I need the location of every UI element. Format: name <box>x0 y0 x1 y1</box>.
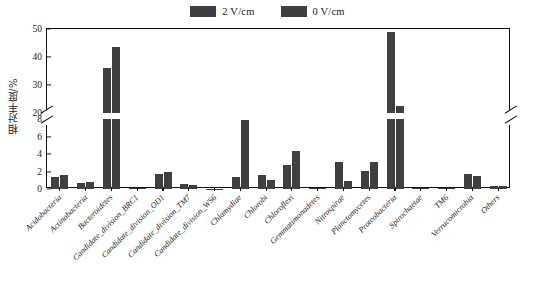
bar-candidate_division_tm7-series-1 <box>180 184 188 189</box>
x-axis-label-others: Others <box>479 193 501 215</box>
y-tick-mark-6 <box>47 136 51 137</box>
x-axis-label-candidate_division_ws6: Candidate_division_WS6 <box>152 193 218 259</box>
y-tick-label-50: 50 <box>33 24 48 34</box>
bar-gemmatimonadetes-series-1 <box>309 188 317 189</box>
x-axis-label-candidate_division_od1: Candidate_division_OD1 <box>100 193 167 260</box>
x-axis-label-actinobacteria: Actinobacteria <box>48 193 89 234</box>
bar-candidate_division_brc1-series-2 <box>138 188 146 189</box>
x-axis-label-bacteroidetes: Bacteroidetes <box>76 193 114 231</box>
plot-area: 0246820304050 <box>46 28 510 188</box>
bar-candidate_division_od1-series-2 <box>164 172 172 190</box>
bar-nitrospirae-series-2 <box>344 181 352 189</box>
bar-chlamydiae-series-1 <box>232 177 240 189</box>
bar-chloroflexi-series-1 <box>283 165 291 189</box>
bar-spirochaetae-series-2 <box>421 188 429 189</box>
y-tick-label-4: 4 <box>37 149 47 159</box>
x-axis-label-candidate_division_brc1: Candidate_division_BRC1 <box>71 193 140 262</box>
bar-proteobacteria-series-1-lower <box>387 119 395 189</box>
legend-label-series-1: 2 V/cm <box>222 6 254 17</box>
bar-verrucomicrobia-series-2 <box>473 176 481 189</box>
x-axis-label-proteobacteria: Proteobacteria <box>357 193 399 235</box>
legend-item-series-2: 0 V/cm <box>281 6 345 17</box>
bar-spirochaetae-series-1 <box>412 188 420 189</box>
x-axis-label-chloroflexi: Chloroflexi <box>262 193 295 226</box>
x-axis-label-gemmatimonadetes: Gemmatimonadetes <box>268 193 321 246</box>
bar-proteobacteria-series-2-upper <box>396 106 404 113</box>
bar-planctomycetes-series-1 <box>361 171 369 189</box>
bar-candidate_division_tm7-series-2 <box>189 185 197 189</box>
bar-others-series-1 <box>490 186 498 190</box>
bar-bacteroidetes-series-1-upper <box>103 68 111 113</box>
bar-chlorobi-series-1 <box>258 175 266 189</box>
y-tick-label-2: 2 <box>37 167 47 177</box>
y-tick-mark-50 <box>47 28 51 29</box>
bar-chart: 2 V/cm 0 V/cm 相对丰度/% 0246820304050 Acido… <box>0 0 535 304</box>
bar-nitrospirae-series-1 <box>335 162 343 189</box>
x-axis-label-chlamydiae: Chlamydiae <box>209 193 244 228</box>
bar-chlamydiae-series-2 <box>241 120 249 189</box>
x-axis-label-planctomycetes: Planctomycetes <box>329 193 372 236</box>
legend-label-series-2: 0 V/cm <box>313 6 345 17</box>
axis-break-mark-right <box>504 109 518 125</box>
bar-proteobacteria-series-2-lower <box>396 119 404 189</box>
bar-acidobacteria-series-2 <box>60 175 68 189</box>
bar-proteobacteria-series-1-upper <box>387 32 395 113</box>
bar-bacteroidetes-series-1-lower <box>103 119 111 189</box>
y-tick-label-6: 6 <box>37 132 47 142</box>
y-tick-mark-2 <box>47 171 51 172</box>
x-axis-label-verrucomicrobia: Verrucomicrobia <box>430 193 476 239</box>
bar-actinobacteria-series-1 <box>77 183 85 189</box>
bar-actinobacteria-series-2 <box>86 182 94 189</box>
bar-verrucomicrobia-series-1 <box>464 174 472 189</box>
bar-chloroflexi-series-2 <box>292 151 300 189</box>
bar-tm6-series-1 <box>438 188 446 189</box>
x-axis-label-nitrospirae: Nitrospirae <box>314 193 347 226</box>
bar-acidobacteria-series-1 <box>51 177 59 189</box>
y-tick-label-0: 0 <box>37 184 47 194</box>
bar-chlorobi-series-2 <box>267 180 275 189</box>
bar-bacteroidetes-series-2-lower <box>112 119 120 189</box>
y-axis-title: 相对丰度/% <box>6 78 21 134</box>
legend-swatch-series-2 <box>281 6 307 17</box>
bar-candidate_division_brc1-series-1 <box>129 188 137 189</box>
bar-candidate_division_od1-series-1 <box>155 174 163 189</box>
bar-gemmatimonadetes-series-2 <box>318 188 326 189</box>
y-tick-mark-4 <box>47 153 51 154</box>
bar-others-series-2 <box>499 186 507 190</box>
legend-item-series-1: 2 V/cm <box>190 6 254 17</box>
axis-break-mark-left <box>40 109 54 125</box>
x-axis-label-chlorobi: Chlorobi <box>242 193 269 220</box>
bar-candidate_division_ws6-series-1 <box>206 189 214 190</box>
legend-swatch-series-1 <box>190 6 216 17</box>
y-tick-mark-40 <box>47 56 51 57</box>
x-axis-label-spirochaetae: Spirochaetae <box>387 193 424 230</box>
x-axis-label-tm6: TM6 <box>432 193 449 210</box>
y-tick-mark-30 <box>47 84 51 85</box>
bar-planctomycetes-series-2 <box>370 162 378 189</box>
x-axis-label-acidobacteria: Acidobacteria <box>24 193 64 233</box>
bar-tm6-series-2 <box>447 188 455 189</box>
chart-legend: 2 V/cm 0 V/cm <box>0 6 535 17</box>
bar-candidate_division_ws6-series-2 <box>215 189 223 190</box>
bar-bacteroidetes-series-2-upper <box>112 47 120 113</box>
plot-inner: 0246820304050 <box>47 29 509 187</box>
y-tick-label-30: 30 <box>33 80 48 90</box>
y-tick-label-40: 40 <box>33 52 48 62</box>
x-axis-label-candidate_division_tm7: Candidate_division_TM7 <box>126 193 192 259</box>
